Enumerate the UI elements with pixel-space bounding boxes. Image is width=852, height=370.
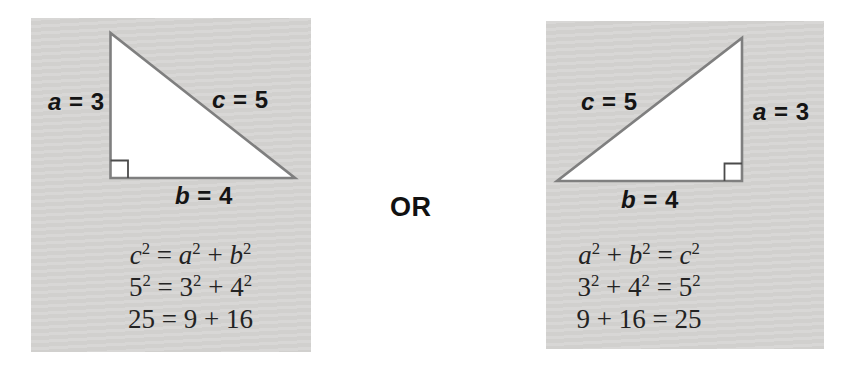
hypotenuse-c-label: c = 5 [212,88,269,112]
equation-line: a2 + b2 = c2 [546,239,732,271]
side-b-label: b = 4 [621,188,679,212]
pythagorean-theorem-figure: a = 3 c = 5 b = 4 c2 = a2 + b2 52 = 32 +… [0,0,852,370]
right-equations: a2 + b2 = c2 32 + 42 = 52 9 + 16 = 25 [546,239,732,335]
right-triangle-panel: c = 5 a = 3 b = 4 a2 + b2 = c2 32 + 42 =… [546,21,824,349]
side-a-label: a = 3 [753,100,810,124]
side-b-label: b = 4 [175,184,233,208]
equation-line: 25 = 9 + 16 [70,303,311,335]
hypotenuse-c-label: c = 5 [581,90,638,114]
equation-line: c2 = a2 + b2 [70,239,311,271]
equation-line: 52 = 32 + 42 [70,271,311,303]
left-triangle-panel: a = 3 c = 5 b = 4 c2 = a2 + b2 52 = 32 +… [31,18,311,352]
equation-line: 9 + 16 = 25 [546,303,732,335]
left-equations: c2 = a2 + b2 52 = 32 + 42 25 = 9 + 16 [70,239,311,335]
equation-line: 32 + 42 = 52 [546,271,732,303]
or-separator-label: OR [390,192,432,223]
side-a-label: a = 3 [48,90,105,114]
